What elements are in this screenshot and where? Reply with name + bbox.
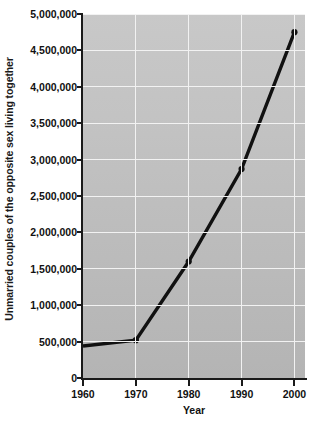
x-axis-title: Year — [83, 404, 305, 416]
y-axis-title-label: Unmarried couples of the opposite sex li… — [3, 57, 15, 321]
y-axis-tick-label: 3,500,000 — [30, 116, 77, 130]
x-axis-tick-label: 1970 — [106, 388, 166, 400]
x-axis-tick-label: 2000 — [264, 388, 321, 400]
horizontal-gridline — [83, 341, 305, 342]
y-axis-tick-labels: 0500,0001,000,0001,500,0002,000,0002,500… — [18, 0, 77, 425]
y-axis-title: Unmarried couples of the opposite sex li… — [0, 0, 18, 378]
x-axis-tick-mark — [135, 380, 137, 386]
x-axis-tick-mark — [241, 380, 243, 386]
y-axis-tick-label: 4,500,000 — [30, 43, 77, 57]
y-axis-tick-mark — [77, 122, 83, 124]
vertical-gridline — [294, 14, 295, 378]
y-axis-tick-label: 1,000,000 — [30, 298, 77, 312]
y-axis-tick-label: 4,000,000 — [30, 80, 77, 94]
y-axis-tick-mark — [77, 49, 83, 51]
y-axis-tick-mark — [77, 13, 83, 15]
y-axis-tick-label: 3,000,000 — [30, 153, 77, 167]
x-axis-tick-mark — [82, 380, 84, 386]
y-axis-tick-mark — [77, 377, 83, 379]
horizontal-gridline — [83, 123, 305, 124]
y-axis-tick-label: 500,000 — [39, 335, 77, 349]
x-axis-tick-label: 1980 — [159, 388, 219, 400]
plot-area — [83, 14, 305, 378]
vertical-gridline — [188, 14, 189, 378]
x-axis-tick-mark — [188, 380, 190, 386]
horizontal-gridline — [83, 268, 305, 269]
y-axis-tick-mark — [77, 268, 83, 270]
vertical-gridline — [241, 14, 242, 378]
x-axis-spine — [81, 378, 307, 380]
y-axis-tick-label: 1,500,000 — [30, 262, 77, 276]
horizontal-gridline — [83, 50, 305, 51]
horizontal-gridline — [83, 305, 305, 306]
horizontal-gridline — [83, 14, 305, 15]
vertical-gridline — [135, 14, 136, 378]
x-axis-tick-mark — [293, 380, 295, 386]
y-axis-tick-mark — [77, 341, 83, 343]
y-axis-tick-label: 2,000,000 — [30, 225, 77, 239]
x-axis-tick-label: 1960 — [53, 388, 113, 400]
horizontal-gridline — [83, 196, 305, 197]
horizontal-gridline — [83, 232, 305, 233]
line-chart-figure: Unmarried couples of the opposite sex li… — [0, 0, 321, 425]
y-axis-tick-mark — [77, 159, 83, 161]
y-axis-tick-label: 2,500,000 — [30, 189, 77, 203]
horizontal-gridline — [83, 86, 305, 87]
y-axis-tick-mark — [77, 86, 83, 88]
y-axis-tick-label: 5,000,000 — [30, 7, 77, 21]
x-axis-tick-label: 1990 — [212, 388, 272, 400]
y-axis-tick-mark — [77, 231, 83, 233]
y-axis-tick-mark — [77, 195, 83, 197]
y-axis-tick-mark — [77, 304, 83, 306]
horizontal-gridline — [83, 159, 305, 160]
